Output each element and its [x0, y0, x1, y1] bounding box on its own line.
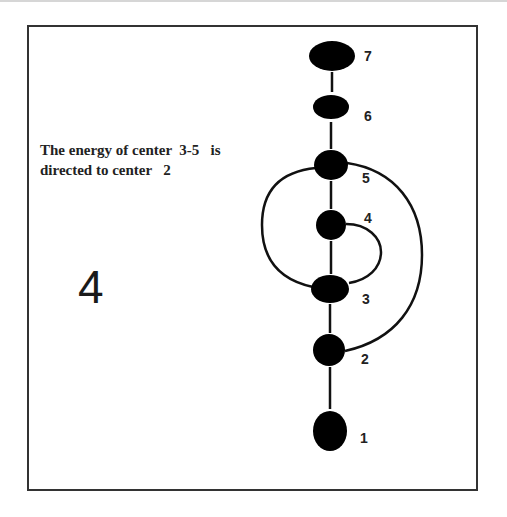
edge-4-3-inner-curve — [346, 224, 381, 283]
node-4 — [316, 210, 346, 240]
node-label-4: 4 — [364, 210, 372, 226]
node-1 — [313, 411, 347, 451]
node-7 — [309, 41, 355, 71]
node-label-2: 2 — [361, 351, 369, 367]
node-2 — [313, 334, 345, 366]
node-3 — [311, 275, 349, 303]
node-6 — [313, 95, 349, 119]
node-label-3: 3 — [362, 291, 370, 307]
node-label-5: 5 — [362, 170, 370, 186]
node-labels: 7 6 5 4 3 2 1 — [360, 48, 372, 446]
energy-center-diagram: 7 6 5 4 3 2 1 — [0, 0, 507, 517]
edge-5-3-left-curve — [262, 168, 316, 287]
edge-5-2-outer-curve — [345, 163, 422, 351]
node-5 — [314, 150, 348, 180]
energy-flows — [262, 163, 422, 351]
node-label-6: 6 — [364, 108, 372, 124]
node-label-7: 7 — [364, 48, 372, 64]
node-label-1: 1 — [360, 430, 368, 446]
